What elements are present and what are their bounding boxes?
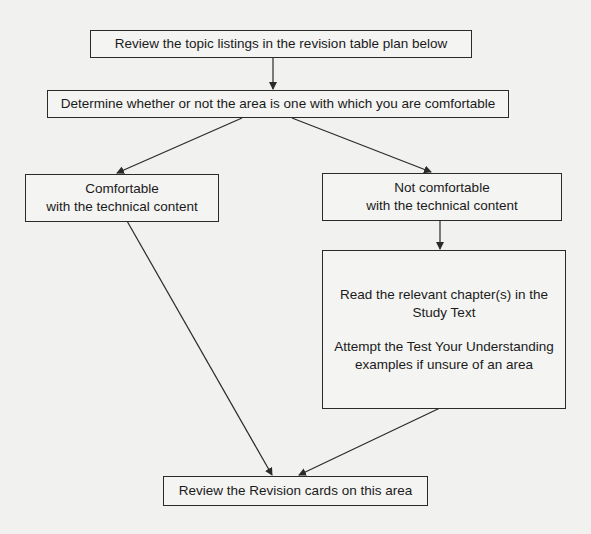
node-text: Review the topic listings in the revisio… — [115, 35, 447, 53]
node-review-revision-cards: Review the Revision cards on this area — [163, 476, 428, 506]
node-text-line1: Comfortable — [85, 180, 159, 198]
arrow-determine-to-comfortable — [117, 118, 242, 173]
node-text-line2: with the technical content — [366, 197, 518, 215]
node-text-line3: Attempt the Test Your Understanding — [334, 338, 554, 356]
node-not-comfortable: Not comfortable with the technical conte… — [322, 173, 562, 221]
node-text: Determine whether or not the area is one… — [61, 95, 495, 113]
node-text-line1: Read the relevant chapter(s) in the — [340, 286, 548, 304]
node-determine-comfort: Determine whether or not the area is one… — [47, 90, 509, 118]
arrow-determine-to-not-comfortable — [292, 118, 431, 172]
flowchart-canvas: Review the topic listings in the revisio… — [0, 0, 591, 534]
node-text-line4: examples if unsure of an area — [355, 356, 533, 374]
node-text-line2: Study Text — [413, 304, 476, 322]
node-review-topic-listings: Review the topic listings in the revisio… — [90, 30, 472, 58]
arrow-study-to-review-cards — [299, 408, 440, 475]
node-text-line1: Not comfortable — [394, 179, 489, 197]
arrow-comfortable-to-review-cards — [127, 221, 272, 475]
node-text: Review the Revision cards on this area — [179, 482, 412, 500]
node-comfortable: Comfortable with the technical content — [25, 174, 219, 222]
node-text-line2: with the technical content — [46, 198, 198, 216]
node-study-text: Read the relevant chapter(s) in the Stud… — [322, 250, 566, 409]
